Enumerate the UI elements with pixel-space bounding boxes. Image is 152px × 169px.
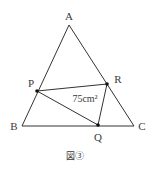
figure-caption: 図③ (66, 151, 84, 161)
label-a: A (65, 10, 73, 22)
triangle-diagram: A B C P R Q 75cm² 図③ (0, 0, 152, 169)
label-r: R (114, 73, 122, 85)
label-q: Q (94, 131, 102, 143)
area-label: 75cm² (72, 93, 97, 104)
point-r-dot (105, 82, 109, 86)
triangle-pqr (37, 84, 107, 125)
point-q-dot (96, 123, 100, 127)
label-c: C (138, 120, 145, 132)
label-p: P (28, 77, 34, 89)
label-b: B (10, 120, 17, 132)
point-p-dot (35, 89, 39, 93)
